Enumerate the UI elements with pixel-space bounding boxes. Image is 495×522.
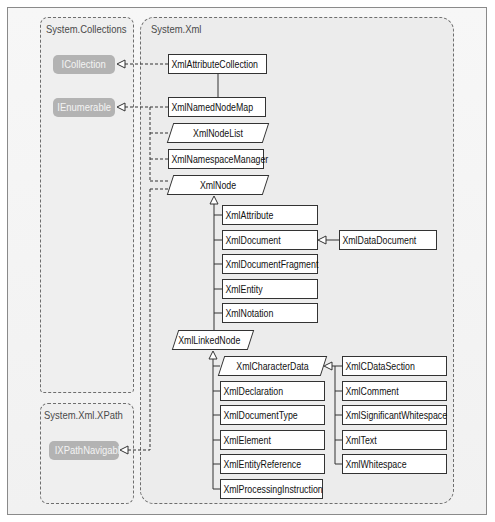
- class-xmlattributecollection[interactable]: XmlAttributeCollection: [168, 54, 267, 74]
- abstract-class-xmlnodelist[interactable]: XmlNodeList: [170, 123, 266, 143]
- namespace-label: System.Xml: [151, 23, 201, 35]
- class-xmldocumenttype[interactable]: XmlDocumentType: [220, 405, 325, 425]
- class-label: XmlWhitespace: [343, 455, 407, 473]
- abstract-class-xmllinkednode[interactable]: XmlLinkedNode: [175, 330, 251, 350]
- interface-icollection[interactable]: ICollection: [53, 55, 115, 74]
- interface-label: IEnumerable: [57, 98, 111, 117]
- class-xmlentity[interactable]: XmlEntity: [222, 279, 318, 299]
- namespace-label: System.Collections: [46, 23, 126, 35]
- class-xmldatadocument[interactable]: XmlDataDocument: [339, 230, 437, 250]
- class-xmlnotation[interactable]: XmlNotation: [222, 303, 318, 323]
- class-label: XmlDataDocument: [340, 231, 416, 249]
- class-label: XmlNotation: [223, 304, 273, 322]
- class-label: XmlNamespaceManager: [169, 150, 268, 168]
- class-xmlentityreference[interactable]: XmlEntityReference: [220, 454, 325, 474]
- class-xmlnamednodemap[interactable]: XmlNamedNodeMap: [168, 97, 266, 117]
- class-xmlprocessinginstruction[interactable]: XmlProcessingInstruction: [220, 479, 323, 499]
- class-xmlattribute[interactable]: XmlAttribute: [222, 205, 318, 225]
- class-label: XmlDocumentType: [221, 406, 298, 424]
- interface-label: IXPathNavigable: [55, 441, 119, 460]
- abstract-class-xmlcharacterdata[interactable]: XmlCharacterData: [221, 356, 324, 376]
- class-label: XmlSignificantWhitespace: [343, 406, 447, 424]
- class-label: XmlText: [343, 431, 377, 449]
- interface-label: ICollection: [62, 55, 106, 74]
- class-label: XmlProcessingInstruction: [221, 480, 323, 498]
- class-xmlwhitespace[interactable]: XmlWhitespace: [342, 454, 447, 474]
- class-label: XmlAttributeCollection: [169, 55, 258, 73]
- class-label: XmlEntityReference: [221, 455, 301, 473]
- class-label: XmlDeclaration: [221, 382, 283, 400]
- class-xmldeclaration[interactable]: XmlDeclaration: [220, 381, 325, 401]
- class-xmlcomment[interactable]: XmlComment: [342, 381, 447, 401]
- class-xmlelement[interactable]: XmlElement: [220, 430, 325, 450]
- class-xmldocumentfragment[interactable]: XmlDocumentFragment: [222, 254, 318, 274]
- class-xmlcdatasection[interactable]: XmlCDataSection: [342, 356, 447, 376]
- class-label: XmlDocument: [223, 231, 281, 249]
- interface-ixpathnavigable[interactable]: IXPathNavigable: [49, 441, 119, 460]
- class-label: XmlNamedNodeMap: [169, 98, 253, 116]
- namespace-label: System.Xml.XPath: [44, 409, 123, 421]
- class-xmltext[interactable]: XmlText: [342, 430, 447, 450]
- class-label: XmlAttribute: [223, 206, 273, 224]
- class-label: XmlComment: [343, 382, 399, 400]
- class-xmlsignificantwhitespace[interactable]: XmlSignificantWhitespace: [342, 405, 447, 425]
- class-label: XmlCDataSection: [343, 357, 415, 375]
- class-xmlnamespacemanager[interactable]: XmlNamespaceManager: [168, 149, 264, 169]
- class-label: XmlLinkedNode: [175, 330, 239, 350]
- class-label: XmlElement: [221, 431, 271, 449]
- abstract-class-xmlnode[interactable]: XmlNode: [170, 175, 266, 195]
- class-label: XmlNode: [180, 175, 257, 195]
- class-label: XmlDocumentFragment: [223, 255, 318, 273]
- interface-ienumerable[interactable]: IEnumerable: [53, 98, 115, 117]
- class-label: XmlNodeList: [180, 123, 257, 143]
- class-label: XmlEntity: [223, 280, 263, 298]
- class-xmldocument[interactable]: XmlDocument: [222, 230, 318, 250]
- class-label: XmlCharacterData: [231, 356, 313, 376]
